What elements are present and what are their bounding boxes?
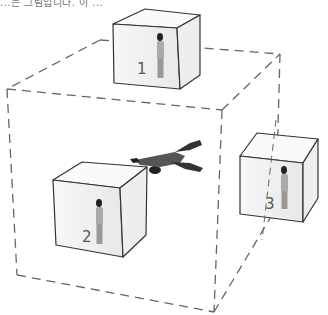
box-2: 2 (53, 162, 147, 257)
box-3: 3 (240, 133, 318, 222)
box-1: 1 (113, 9, 200, 89)
box-2-label: 2 (82, 228, 92, 246)
box-1-label: 1 (137, 60, 147, 78)
diagram-canvas: 1 2 3 (0, 0, 328, 315)
